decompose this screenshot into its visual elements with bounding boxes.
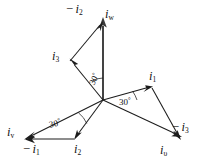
- label-i-u-text: iυ: [160, 143, 167, 157]
- angle-arc-right: [133, 91, 137, 100]
- label-i-v-text: iv: [7, 125, 14, 139]
- label-i-3-text: i3: [52, 49, 59, 63]
- label-i-2: i2: [74, 143, 81, 156]
- label-minus-i1: − i1: [23, 143, 40, 156]
- angle-label-right-value: 30: [119, 97, 128, 107]
- vector-i-2: [74, 100, 103, 140]
- label-i-w-text: iw: [105, 7, 114, 21]
- label-minus-i2: − i2: [66, 3, 83, 16]
- label-minus-i3: − i3: [172, 121, 189, 134]
- label-i-1-text: i1: [149, 69, 156, 83]
- angle-label-right: 30°: [119, 97, 131, 107]
- label-minus-i1-text: − i1: [23, 142, 40, 156]
- angle-label-right-unit: °: [128, 96, 131, 103]
- label-minus-i3-text: − i3: [172, 120, 189, 134]
- label-minus-i2-text: − i2: [66, 2, 83, 16]
- label-i-w: iw: [105, 8, 114, 21]
- label-i-u: iυ: [160, 144, 167, 157]
- phasor-diagram-figure: − i2 iw i3 i1 − i3 iυ iv − i1 i2 30° 30°…: [0, 0, 207, 168]
- label-i-v: iv: [7, 126, 14, 139]
- label-i-2-text: i2: [74, 142, 81, 156]
- label-i-1: i1: [149, 70, 156, 83]
- angle-arc-lower-left: [79, 113, 87, 124]
- vector-i-u: [103, 100, 182, 137]
- vector-i-v: [24, 100, 103, 140]
- vector-minus-i-2: [70, 21, 103, 61]
- label-i-3: i3: [52, 50, 59, 63]
